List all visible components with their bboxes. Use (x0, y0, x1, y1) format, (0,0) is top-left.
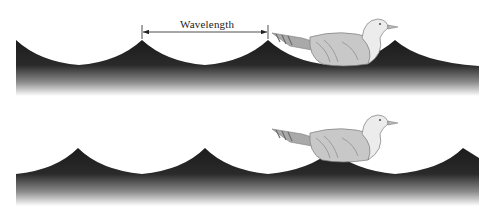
bottom-wave (16, 148, 479, 206)
wavelength-label: Wavelength (180, 18, 234, 30)
wave-diagram (0, 0, 492, 212)
top-wave (16, 40, 479, 96)
bird-bottom (272, 115, 398, 162)
